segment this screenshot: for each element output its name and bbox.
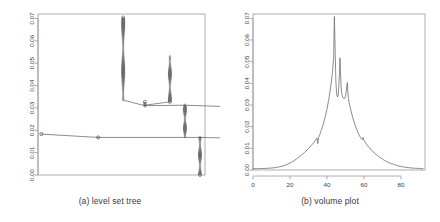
volume-curve xyxy=(253,17,423,169)
y-axis-tick-label: 0.04 xyxy=(243,77,250,90)
y-axis-tick-label: 0.02 xyxy=(243,120,250,133)
x-axis-tick-label: 60 xyxy=(361,181,368,188)
caption-panel-a: (a) level set tree xyxy=(0,196,220,206)
tree-branch xyxy=(198,136,201,176)
y-axis-tick-label: 0.06 xyxy=(28,34,35,47)
figure-container: 0.000.010.020.030.040.050.060.07 (a) lev… xyxy=(0,0,440,222)
y-axis-tick-label: 0.01 xyxy=(28,146,35,159)
panel-volume-plot: 0.000.010.020.030.040.050.060.0702040608… xyxy=(220,0,440,222)
tree-connector xyxy=(185,105,220,107)
panel-level-set-tree: 0.000.010.020.030.040.050.060.07 (a) lev… xyxy=(0,0,220,222)
x-axis-tick-label: 0 xyxy=(251,181,255,188)
tree-connector xyxy=(200,137,220,138)
tree-branch xyxy=(183,104,186,138)
tree-graphics xyxy=(41,100,220,139)
y-axis-tick-label: 0.05 xyxy=(243,55,250,68)
tree-connector xyxy=(145,102,170,105)
x-axis-tick-label: 40 xyxy=(324,181,331,188)
plot-frame xyxy=(253,14,425,170)
level-set-tree-plot: 0.000.010.020.030.040.050.060.07 xyxy=(0,0,220,190)
tree-connector xyxy=(123,100,145,106)
y-axis-tick-label: 0.04 xyxy=(28,79,35,92)
volume-plot: 0.000.010.020.030.040.050.060.0702040608… xyxy=(220,0,440,190)
y-axis-tick-label: 0.03 xyxy=(243,98,250,111)
y-axis-tick-label: 0.06 xyxy=(243,33,250,46)
caption-panel-b: (b) volume plot xyxy=(220,196,440,206)
y-axis-tick-label: 0.01 xyxy=(243,142,250,155)
y-axis-tick-label: 0.03 xyxy=(28,101,35,114)
x-axis-tick-label: 20 xyxy=(287,181,294,188)
y-axis-tick-label: 0.00 xyxy=(28,168,35,181)
y-axis-tick-label: 0.02 xyxy=(28,124,35,137)
plot-frame xyxy=(38,14,205,175)
y-axis-tick-label: 0.05 xyxy=(28,57,35,70)
tree-branch xyxy=(168,55,171,103)
tree-branch xyxy=(143,100,146,107)
y-axis-tick-label: 0.00 xyxy=(243,163,250,176)
tree-connector xyxy=(41,134,98,137)
y-axis-tick-label: 0.07 xyxy=(243,12,250,25)
x-axis-tick-label: 80 xyxy=(398,181,405,188)
y-axis-tick-label: 0.07 xyxy=(28,12,35,25)
tree-branch xyxy=(122,16,125,101)
